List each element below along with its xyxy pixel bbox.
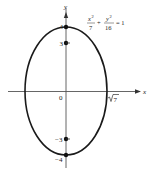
eq-term1-denominator: 7 [89, 24, 93, 31]
vertex-bottom-point [64, 153, 68, 157]
ellipse-diagram: y x 0 4 3 −3 −4 7 x 2 7 + y 2 16 = 1 [0, 0, 152, 181]
eq-term2-denominator: 16 [105, 24, 112, 31]
origin-label: 0 [59, 94, 63, 102]
eq-term1-exponent: 2 [92, 14, 94, 19]
vertex-top-point [64, 25, 68, 29]
x-axis-arrow-icon [135, 89, 141, 93]
eq-plus: + [97, 19, 101, 26]
label-lower-focus: −3 [55, 136, 63, 144]
label-top: 4 [60, 23, 64, 31]
eq-term1-numerator: x [87, 15, 91, 22]
sqrt7-label: 7 [108, 95, 119, 104]
label-bottom: −4 [55, 156, 63, 164]
radicand: 7 [114, 96, 118, 104]
eq-term2-numerator: y [105, 15, 109, 22]
eq-equals-one: = 1 [116, 19, 125, 26]
label-upper-focus: 3 [60, 40, 64, 48]
y-axis-label: y [63, 3, 68, 11]
x-axis-label: x [142, 88, 147, 96]
eq-term2-exponent: 2 [110, 14, 112, 19]
ellipse-equation: x 2 7 + y 2 16 = 1 [87, 14, 125, 31]
y-axis-arrow-icon [64, 12, 68, 18]
